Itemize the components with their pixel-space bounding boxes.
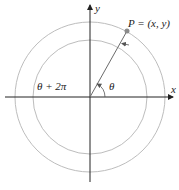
point-p (125, 29, 130, 34)
x-axis-label: x (171, 84, 176, 95)
point-label: P = (x, y) (128, 18, 170, 29)
theta-plus-2pi-arrow (122, 44, 129, 46)
y-axis-label: y (95, 3, 100, 14)
theta-plus-2pi-label: θ + 2π (37, 81, 66, 92)
theta-label: θ (109, 81, 114, 92)
theta-arc (97, 84, 105, 97)
